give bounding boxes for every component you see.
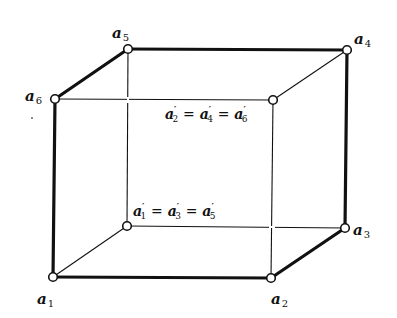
label-a5: a5 (112, 25, 129, 43)
vertex-a2 (267, 274, 276, 283)
line-crossing-gap (127, 97, 129, 103)
edge-p135-a3 (127, 226, 345, 228)
thin-edges (53, 49, 347, 278)
edge-a6-a1 (53, 99, 55, 277)
thick-edges (53, 49, 347, 278)
line-crossing-gap (269, 226, 275, 228)
cube-diagram (0, 0, 397, 318)
vertex-p246 (269, 96, 278, 105)
label-a3: a3 (353, 222, 370, 240)
label-a4: a4 (354, 31, 371, 49)
edge-a1-a2 (53, 277, 271, 278)
vertex-a6 (51, 95, 60, 104)
vertices (49, 45, 352, 283)
vertex-a4 (343, 46, 352, 55)
label-lower-equality: a′1 = a′3 = a′5 (133, 203, 216, 221)
label-upper-equality: a′2 = a′4 = a′6 (165, 106, 248, 124)
edge-p135-a1 (53, 226, 127, 277)
vertex-p135 (123, 222, 132, 231)
vertex-a3 (341, 224, 350, 233)
label-a1: a1 (37, 291, 54, 309)
edge-a2-a3 (271, 228, 345, 278)
edge-a6-p246 (55, 99, 273, 100)
edge-a3-a4 (345, 50, 347, 228)
label-a2: a2 (271, 291, 288, 309)
edge-p246-a2 (271, 100, 273, 278)
vertex-a1 (49, 273, 58, 282)
edge-a5-a6 (55, 49, 128, 99)
vertex-a5 (124, 45, 133, 54)
edge-a4-a5 (128, 49, 347, 50)
edge-a5-p135 (127, 49, 128, 226)
stray-dot (31, 117, 33, 119)
edge-p246-a4 (273, 50, 347, 100)
label-a6: a6 (25, 88, 42, 106)
